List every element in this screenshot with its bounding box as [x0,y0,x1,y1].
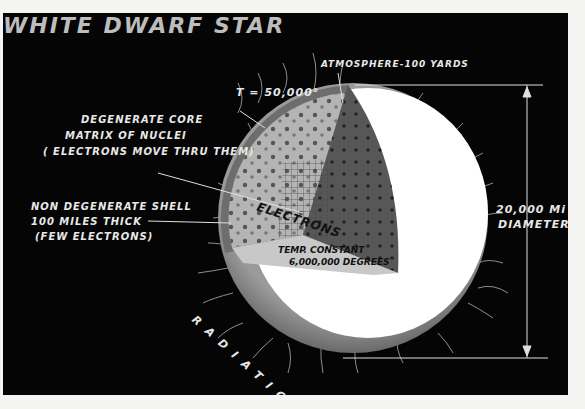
surface-temperature-label: T = 50,000° [236,86,319,99]
diameter-label-line2: DIAMETER [498,218,568,231]
shell-label-line3: (FEW ELECTRONS) [35,231,153,242]
core-label-line3: ( ELECTRONS MOVE THRU THEM) [43,146,255,157]
temp-constant-line1: TEMP. CONSTANT [278,245,364,255]
diameter-label-line1: 20,000 Mi [496,203,566,216]
shell-label-line1: NON DEGENERATE SHELL [31,201,192,212]
core-label-line2: MATRIX OF NUCLEI [65,130,187,141]
diagram-panel: WHITE DWARF STAR T = 50,000° ATMOSPHERE-… [3,13,568,395]
shell-label-line2: 100 MILES THICK [31,216,142,227]
temp-constant-line2: 6,000,000 DEGREES [289,257,390,267]
atmosphere-label: ATMOSPHERE-100 YARDS [321,59,469,69]
core-label-line1: DEGENERATE CORE [81,114,203,125]
